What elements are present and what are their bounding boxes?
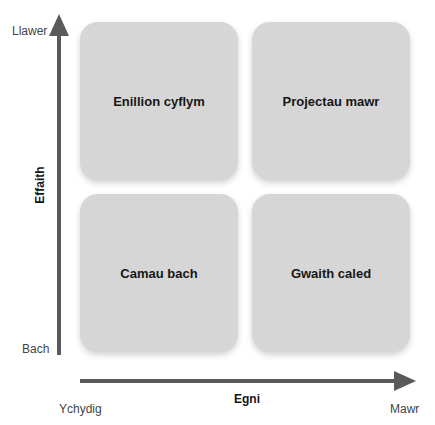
- quadrant-label: Enillion cyflym: [113, 94, 205, 109]
- quadrant-hard-work: Gwaith caled: [252, 194, 410, 352]
- y-axis-title: Effaith: [33, 166, 47, 203]
- x-axis-high-label: Mawr: [390, 402, 419, 416]
- quadrant-major-projects: Projectau mawr: [252, 22, 410, 180]
- quadrant-label: Camau bach: [120, 266, 197, 281]
- x-axis-arrow: [80, 371, 416, 391]
- x-axis-title: Egni: [234, 392, 260, 406]
- quadrant-label: Gwaith caled: [291, 266, 371, 281]
- x-axis-low-label: Ychydig: [59, 402, 102, 416]
- quadrant-label: Projectau mawr: [283, 94, 380, 109]
- quadrant-quick-wins: Enillion cyflym: [80, 22, 238, 180]
- y-axis-arrow: [49, 14, 69, 355]
- quadrant-small-steps: Camau bach: [80, 194, 238, 352]
- y-axis-high-label: Llawer: [12, 24, 47, 38]
- y-axis-low-label: Bach: [22, 342, 49, 356]
